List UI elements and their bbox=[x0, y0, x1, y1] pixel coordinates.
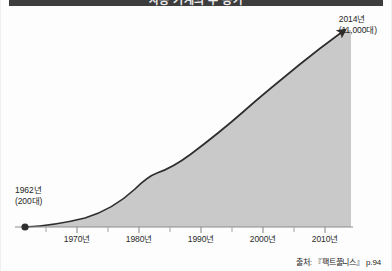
start-value-label: (200대) bbox=[15, 196, 42, 207]
chart-page: 자동 기계의 수 증가 bbox=[0, 0, 392, 271]
growth-area-chart bbox=[1, 6, 392, 251]
end-year-label: 2014년 bbox=[339, 14, 365, 24]
end-value-label: (11,000대) bbox=[339, 25, 377, 36]
x-tick-label-2010: 2010년 bbox=[312, 232, 338, 244]
x-tick-label-1980: 1980년 bbox=[126, 232, 152, 244]
x-tick-label-2000: 2000년 bbox=[250, 232, 276, 244]
start-point-marker bbox=[21, 223, 28, 230]
end-annotation: 2014년 (11,000대) bbox=[339, 14, 377, 36]
source-note: 출처: 『팩트풀니스』 p.94 bbox=[296, 256, 381, 267]
chart-svg bbox=[1, 6, 392, 251]
x-tick-label-1970: 1970년 bbox=[64, 232, 90, 244]
start-year-label: 1962년 bbox=[15, 185, 41, 195]
area-fill bbox=[25, 30, 351, 227]
x-tick-label-1990: 1990년 bbox=[188, 232, 214, 244]
start-annotation: 1962년 (200대) bbox=[15, 185, 42, 207]
